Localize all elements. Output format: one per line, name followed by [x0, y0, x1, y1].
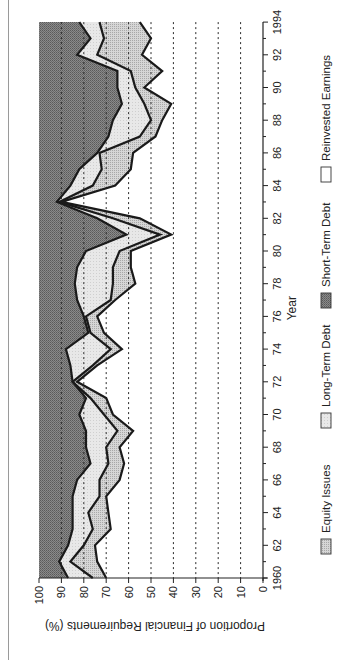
legend-swatch: [321, 413, 331, 428]
year-tick-label: 90: [271, 81, 283, 93]
legend-item-reinvested-earnings: Reinvested Earnings: [320, 55, 332, 182]
value-tick-label: 60: [123, 586, 135, 598]
value-tick-label: 0: [257, 586, 269, 592]
legend-swatch: [321, 539, 331, 554]
value-tick-label: 80: [78, 586, 90, 598]
year-tick-label: 72: [271, 376, 283, 388]
year-tick-label: 1960: [271, 566, 283, 590]
value-tick-label: 70: [100, 586, 112, 598]
year-tick-label: 86: [271, 147, 283, 159]
year-tick-label: 1994: [271, 10, 283, 34]
year-tick-label: 70: [271, 408, 283, 420]
year-tick-label: 74: [271, 343, 283, 355]
value-tick-label: 90: [55, 586, 67, 598]
year-tick-label: 62: [271, 539, 283, 551]
legend-swatch: [321, 167, 331, 182]
value-tick-label: 10: [235, 586, 247, 598]
value-tick-label: 30: [190, 586, 202, 598]
year-tick-label: 76: [271, 310, 283, 322]
legend-label: Long-Term Debt: [320, 324, 332, 407]
legend-item-short-term-debt: Short-Term Debt: [320, 202, 332, 308]
legend-item-long-term-debt: Long-Term Debt: [320, 324, 332, 428]
value-tick-label: 50: [145, 586, 157, 598]
legend-label: Equity Issues: [320, 464, 332, 533]
year-tick-label: 78: [271, 278, 283, 290]
value-tick-label: 40: [167, 586, 179, 598]
legend: Equity IssuesLong-Term DebtShort-Term De…: [320, 55, 332, 554]
y-axis-title: Proportion of Financial Requirements (%): [45, 619, 265, 633]
year-tick-label: 84: [271, 179, 283, 191]
value-tick-label: 20: [212, 586, 224, 598]
x-axis-title: Year: [285, 296, 299, 320]
year-tick-label: 92: [271, 49, 283, 61]
stacked-area-chart: 0102030405060708090100196062646668707274…: [0, 0, 346, 660]
value-tick-label: 100: [33, 586, 45, 604]
legend-item-equity-issues: Equity Issues: [320, 464, 332, 554]
legend-label: Short-Term Debt: [320, 202, 332, 287]
year-tick-label: 82: [271, 212, 283, 224]
legend-swatch: [321, 293, 331, 308]
legend-label: Reinvested Earnings: [320, 55, 332, 161]
year-tick-label: 68: [271, 441, 283, 453]
year-tick-label: 64: [271, 506, 283, 518]
year-tick-label: 88: [271, 114, 283, 126]
year-tick-label: 80: [271, 245, 283, 257]
year-tick-label: 66: [271, 474, 283, 486]
